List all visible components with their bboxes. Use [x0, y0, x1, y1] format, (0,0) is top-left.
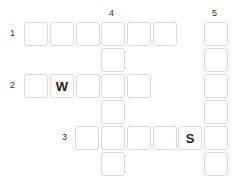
crossword-cell-c5r2[interactable] — [204, 48, 228, 72]
crossword-cell-r1c1[interactable] — [24, 22, 48, 46]
clue-number-3: 3 — [62, 133, 67, 142]
crossword-cell-r3c3[interactable] — [127, 126, 151, 150]
crossword-cell-c4r2[interactable] — [101, 48, 125, 72]
crossword-cell-c5r6[interactable] — [204, 152, 228, 176]
crossword-cell-r3c6[interactable] — [204, 126, 228, 150]
crossword-cell-c5r3[interactable] — [204, 74, 228, 98]
clue-number-4: 4 — [109, 9, 114, 18]
crossword-cell-r1c3[interactable] — [76, 22, 100, 46]
crossword-cell-r1c5[interactable] — [127, 22, 151, 46]
clue-number-1: 1 — [10, 29, 15, 38]
crossword-cell-r2c5[interactable] — [127, 74, 151, 98]
crossword-cell-c4r4[interactable] — [101, 100, 125, 124]
crossword-grid: 12345WS — [0, 0, 244, 189]
clue-number-2: 2 — [10, 81, 15, 90]
clue-number-5: 5 — [212, 9, 217, 18]
crossword-cell-c5r4[interactable] — [204, 100, 228, 124]
crossword-cell-c4r6[interactable] — [101, 152, 125, 176]
crossword-cell-r3c1[interactable] — [75, 126, 99, 150]
crossword-cell-r2c3[interactable] — [76, 74, 100, 98]
crossword-cell-r3c2[interactable] — [101, 126, 125, 150]
crossword-cell-r2c2[interactable]: W — [50, 74, 74, 98]
crossword-cell-r3c5[interactable]: S — [178, 126, 202, 150]
crossword-cell-r2c4[interactable] — [101, 74, 125, 98]
crossword-cell-c5r1[interactable] — [204, 22, 228, 46]
crossword-cell-r1c2[interactable] — [50, 22, 74, 46]
crossword-cell-r2c1[interactable] — [24, 74, 48, 98]
crossword-cell-r1c6[interactable] — [153, 22, 177, 46]
crossword-cell-r1c4[interactable] — [101, 22, 125, 46]
crossword-cell-r3c4[interactable] — [153, 126, 177, 150]
